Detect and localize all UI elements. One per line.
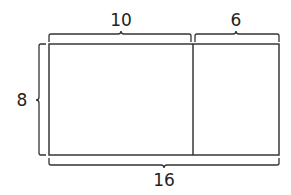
outer-rectangle <box>49 44 279 155</box>
left-height-brace <box>36 44 46 155</box>
top-right-width-label: 6 <box>231 10 242 30</box>
top-left-width-label: 10 <box>110 10 132 30</box>
total-width-label: 16 <box>153 170 175 190</box>
top-left-brace <box>49 31 191 42</box>
top-right-brace <box>195 31 279 42</box>
area-model-diagram: 10 6 8 16 <box>0 0 291 195</box>
bottom-total-brace <box>49 158 279 168</box>
height-label: 8 <box>17 90 28 110</box>
